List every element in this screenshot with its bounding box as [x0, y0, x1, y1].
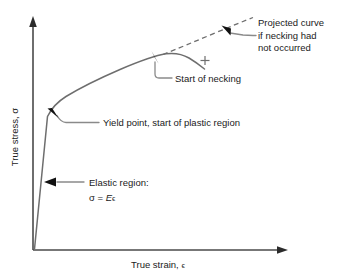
y-axis-arrowhead-icon — [29, 16, 37, 27]
necking-leader-line — [155, 62, 172, 78]
y-axis-label-text: True stress, — [9, 114, 20, 166]
elastic-equation-sigma: σ = — [89, 192, 106, 203]
yield-label: Yield point, start of plastic region — [103, 117, 240, 128]
stress-strain-diagram: Projected curve if necking had not occur… — [0, 0, 341, 278]
y-axis-label-symbol: σ — [9, 108, 20, 114]
projected-curve-dashed — [163, 18, 253, 55]
annotation-yield-point: Yield point, start of plastic region — [48, 108, 240, 128]
elastic-equation-strain: ϵ — [112, 194, 116, 203]
necking-label: Start of necking — [175, 73, 241, 84]
elastic-leader-arrow-icon — [44, 178, 56, 187]
projected-curve-label-line3: not occurred — [258, 42, 311, 53]
x-axis-label-symbol: ϵ — [181, 261, 185, 270]
projected-curve-label-line1: Projected curve — [258, 17, 324, 28]
projected-curve-leader-line — [230, 33, 256, 36]
diagram-svg: Projected curve if necking had not occur… — [0, 0, 341, 278]
x-axis-arrowhead-icon — [277, 246, 288, 254]
elastic-equation: σ = Eϵ — [89, 192, 116, 203]
x-axis — [33, 246, 288, 254]
elastic-label-line1: Elastic region: — [89, 177, 149, 188]
annotation-projected-curve: Projected curve if necking had not occur… — [222, 17, 325, 53]
x-axis-label: True strain, ϵ — [131, 259, 185, 270]
y-axis-label: True stress, σ — [9, 108, 20, 166]
x-axis-label-text: True strain, — [131, 259, 181, 270]
projected-curve-label-line2: if necking had — [258, 30, 317, 41]
annotation-start-of-necking: Start of necking — [152, 51, 242, 84]
annotation-elastic-region: Elastic region: σ = Eϵ — [44, 177, 149, 203]
y-axis — [29, 16, 37, 250]
yield-leader-line — [57, 116, 99, 123]
fracture-point-marker-icon — [201, 56, 210, 65]
